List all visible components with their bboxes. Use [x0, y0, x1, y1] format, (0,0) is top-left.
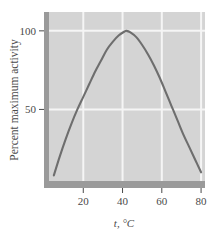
- x-axis-ticks: 20406080: [78, 188, 207, 207]
- x-axis-band: [44, 181, 205, 188]
- chart-svg: 20406080 50100 Percent maximum activity …: [0, 0, 223, 237]
- x-tick-label-20: 20: [78, 195, 90, 207]
- y-axis-band: [44, 12, 49, 188]
- chart-figure: 20406080 50100 Percent maximum activity …: [0, 0, 223, 237]
- x-tick-label-40: 40: [117, 195, 129, 207]
- x-tick-label-80: 80: [196, 195, 208, 207]
- x-axis-title: t, °C: [114, 217, 135, 229]
- plot-area-background: [44, 12, 205, 188]
- x-tick-label-60: 60: [156, 195, 168, 207]
- y-axis-ticks: 50100: [20, 25, 45, 116]
- y-tick-label-100: 100: [20, 25, 37, 37]
- y-axis-title: Percent maximum activity: [8, 39, 21, 161]
- y-tick-label-50: 50: [25, 103, 37, 115]
